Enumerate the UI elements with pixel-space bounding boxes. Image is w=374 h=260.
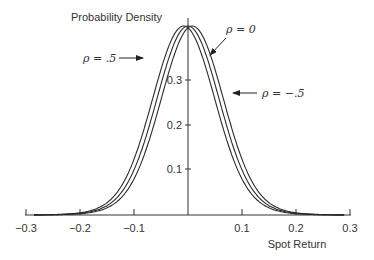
annotation-rho-negative: ρ = −.5 xyxy=(261,87,304,100)
annotation-rho-zero: ρ = 0 xyxy=(225,23,256,36)
curve-rho-zero xyxy=(34,26,344,215)
y-tick-label: 0.2 xyxy=(167,119,182,131)
x-tick-label: 0.2 xyxy=(288,222,303,234)
x-tick-label: −0.1 xyxy=(123,222,145,234)
curve-rho-negative xyxy=(34,26,344,215)
density-curves xyxy=(34,26,344,215)
y-axis-label: Probability Density xyxy=(71,11,163,23)
x-tick-label: 0.3 xyxy=(342,222,357,234)
x-axis-label: Spot Return xyxy=(268,238,327,250)
x-tick-label: 0.1 xyxy=(234,222,249,234)
y-tick-label: 0.1 xyxy=(167,163,182,175)
x-tick-label: −0.3 xyxy=(15,222,37,234)
y-tick-labels: 0.1 0.2 0.3 xyxy=(167,74,182,175)
curve-rho-positive xyxy=(34,26,344,215)
density-chart: −0.3 −0.2 −0.1 0.1 0.2 0.3 0.1 0.2 0.3 P… xyxy=(0,0,374,260)
x-tick-label: −0.2 xyxy=(69,222,91,234)
y-tick-label: 0.3 xyxy=(167,74,182,86)
annotation-rho-positive: ρ = .5 xyxy=(82,52,116,65)
arrow-down-left-icon xyxy=(210,38,226,55)
x-tick-labels: −0.3 −0.2 −0.1 0.1 0.2 0.3 xyxy=(15,222,358,234)
